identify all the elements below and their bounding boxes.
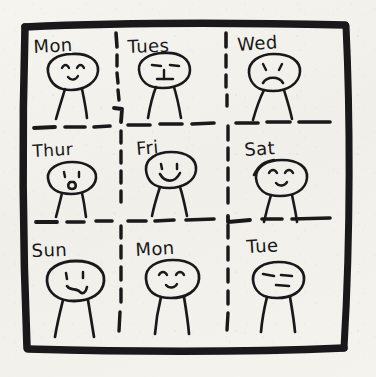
sketch-page: Mon Tues Wed Thur Fri Sat Sun Mon Tue: [0, 0, 376, 377]
grid-cell-3-1: [28, 226, 118, 346]
grid-cell-1-2: [120, 30, 225, 124]
grid-cell-1-3: [230, 30, 342, 122]
grid-divider-vertical-2: [226, 33, 228, 330]
grid-cell-2-3: [231, 126, 342, 218]
grid-cell-1-1: [28, 30, 116, 125]
grid-cell-3-3: [231, 223, 342, 346]
grid-cell-2-1: [28, 130, 116, 220]
grid-cell-2-2: [122, 128, 225, 219]
grid-cell-3-2: [122, 225, 226, 346]
